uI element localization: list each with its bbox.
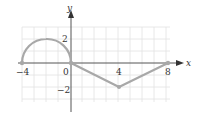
x-axis-arrow-icon — [176, 60, 184, 66]
x-tick-4: 4 — [116, 67, 122, 77]
x-axis — [18, 60, 184, 66]
x-tick-8: 8 — [165, 67, 171, 77]
x-tick-0: 0 — [63, 67, 69, 77]
x-axis-label: x — [186, 58, 191, 68]
function-graph: x y −4 0 4 8 2 −2 — [0, 0, 203, 114]
x-tick-neg4: −4 — [16, 67, 30, 77]
y-tick-2: 2 — [62, 34, 68, 44]
y-axis-label: y — [66, 3, 73, 13]
y-tick-neg2: −2 — [57, 85, 70, 95]
